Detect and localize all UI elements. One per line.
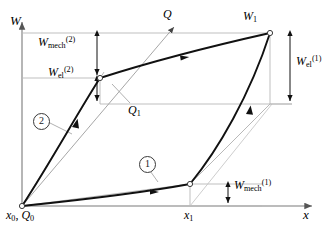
work-displacement-diagram: W x W1 Q Q1 x0, Q0 x1 Wmech(2) Wel(2) We… [0, 0, 334, 226]
leader-q1 [112, 84, 130, 103]
guide-lower-slant [190, 104, 270, 184]
x1-tick-label: x1 [184, 209, 193, 223]
branch-marker-2: 2 [33, 113, 50, 130]
label-w-mech-2: Wmech(2) [38, 36, 75, 50]
arrow-on-branch-1-rise [246, 105, 253, 114]
leader-branch-2 [48, 122, 72, 134]
marker-kink-upper [97, 75, 102, 80]
x-axis-label: x [303, 208, 309, 221]
origin-label: x0, Q0 [6, 209, 34, 223]
curve-branch-1-rise [190, 33, 270, 184]
branch-marker-1: 1 [139, 156, 156, 173]
label-q1: Q1 [128, 104, 141, 118]
diagram-canvas [0, 0, 334, 226]
label-w-mech-1: Wmech(1) [234, 179, 271, 193]
marker-w1 [267, 30, 272, 35]
curve-branch-2-rise [22, 78, 100, 206]
arrow-on-branch-2-upper [180, 56, 189, 61]
label-w-el-1: Wel(1) [296, 55, 321, 69]
label-q: Q [163, 8, 172, 20]
point-label-w1: W1 [243, 10, 257, 24]
curve-branch-2-upper [100, 33, 270, 78]
label-w-el-2: Wel(2) [48, 66, 73, 80]
curves-group [22, 33, 270, 206]
y-axis-label: W [10, 14, 21, 27]
marker-kink-lower [187, 181, 192, 186]
